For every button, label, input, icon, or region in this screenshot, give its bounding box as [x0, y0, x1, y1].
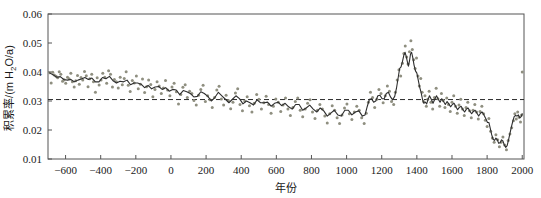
x-axis-title: 年份	[275, 181, 297, 194]
scatter-dot	[435, 87, 438, 90]
scatter-dot	[64, 82, 67, 85]
scatter-dot	[313, 117, 316, 120]
x-tick-label: 1600	[441, 164, 464, 176]
scatter-dot	[466, 101, 469, 104]
scatter-dot	[151, 95, 154, 98]
y-tick-label: 0.06	[23, 8, 43, 20]
y-axis-title-prefix: 积累率/(m H	[2, 71, 15, 131]
scatter-dot	[143, 91, 146, 94]
scatter-dot	[109, 73, 112, 76]
scatter-dot	[459, 98, 462, 101]
x-tick-label: 1200	[371, 164, 394, 176]
scatter-dot	[296, 97, 299, 100]
scatter-dot	[498, 145, 501, 148]
scatter-dot	[90, 73, 93, 76]
scatter-dot	[363, 122, 366, 125]
scatter-dot	[415, 57, 418, 60]
scatter-dot	[231, 101, 234, 104]
scatter-dot	[202, 84, 205, 87]
scatter-dot	[168, 94, 171, 97]
x-tick-label: 2000	[511, 164, 534, 176]
scatter-dot	[382, 101, 385, 104]
scatter-dot	[204, 100, 207, 103]
scatter-dot	[428, 90, 431, 93]
scatter-dot	[59, 73, 62, 76]
scatter-dot	[355, 105, 358, 108]
scatter-dot	[309, 98, 312, 101]
scatter-dot	[501, 135, 504, 138]
scatter-dot	[516, 111, 519, 114]
x-tick-label: 1000	[336, 164, 359, 176]
y-tick-label: 0.02	[23, 124, 42, 136]
scatter-dot	[284, 97, 287, 100]
scatter-dot	[270, 112, 273, 115]
scatter-dot	[425, 105, 428, 108]
scatter-dot	[236, 87, 239, 90]
scatter-dot	[241, 109, 244, 112]
scatter-dot	[218, 85, 221, 88]
scatter-dot	[423, 94, 426, 97]
scatter-dot	[171, 86, 174, 89]
scatter-dot	[463, 114, 466, 117]
scatter-dot	[234, 91, 237, 94]
scatter-dot	[493, 141, 496, 144]
scatter-dot	[211, 106, 214, 109]
scatter-dot	[289, 114, 292, 117]
scatter-dot	[149, 83, 152, 86]
scatter-dot	[96, 76, 99, 79]
scatter-dot	[215, 88, 218, 91]
scatter-dot	[265, 95, 268, 98]
scatter-dot	[443, 106, 446, 109]
scatter-dot	[473, 103, 476, 106]
scatter-dot	[294, 100, 297, 103]
scatter-dot	[513, 112, 516, 115]
scatter-dot	[141, 77, 144, 80]
scatter-dot	[101, 72, 104, 75]
scatter-dot	[480, 105, 483, 108]
scatter-dot	[69, 72, 72, 75]
scatter-dot	[449, 110, 452, 113]
scatter-dot	[220, 97, 223, 100]
scatter-dot	[487, 117, 490, 120]
scatter-dot	[494, 133, 497, 136]
scatter-dot	[450, 101, 453, 104]
scatter-dot	[438, 105, 441, 108]
scatter-dot	[274, 97, 277, 100]
y-tick-label: 0.03	[23, 95, 43, 107]
y-tick-label: 0.04	[23, 66, 43, 78]
scatter-dot	[515, 117, 518, 120]
scatter-dot	[129, 90, 132, 93]
scatter-dot	[486, 125, 489, 128]
scatter-dot	[255, 93, 258, 96]
scatter-dot	[360, 116, 363, 119]
scatter-dot	[147, 79, 150, 82]
scatter-dot	[331, 104, 334, 107]
scatter-dot	[119, 76, 122, 79]
scatter-dot	[343, 106, 346, 109]
x-tick-label: 1400	[406, 164, 429, 176]
x-tick-label: −200	[124, 164, 147, 176]
scatter-dot	[369, 91, 372, 94]
scatter-dot	[470, 116, 473, 119]
scatter-dot	[50, 82, 53, 85]
scatter-dot	[51, 71, 54, 74]
scatter-dot	[184, 83, 187, 86]
scatter-dot	[98, 84, 101, 87]
y-axis-title-suffix: O/a)	[3, 45, 15, 66]
scatter-dot	[392, 103, 395, 106]
scatter-dot	[311, 111, 314, 114]
scatter-dot	[250, 111, 253, 114]
scatter-dot	[87, 85, 90, 88]
scatter-dot	[286, 108, 289, 111]
scatter-dot	[192, 99, 195, 102]
scatter-dot	[519, 120, 522, 123]
scatter-dot	[181, 86, 184, 89]
scatter-dot	[377, 88, 380, 91]
scatter-dot	[153, 88, 156, 91]
scatter-dot	[380, 92, 383, 95]
x-tick-label: 800	[303, 164, 320, 176]
scatter-dot	[299, 109, 302, 112]
accumulation-rate-chart-figure: 0.010.020.030.040.050.06 −600−400−200020…	[0, 0, 541, 198]
scatter-dot	[431, 108, 434, 111]
scatter-dot	[58, 70, 61, 73]
